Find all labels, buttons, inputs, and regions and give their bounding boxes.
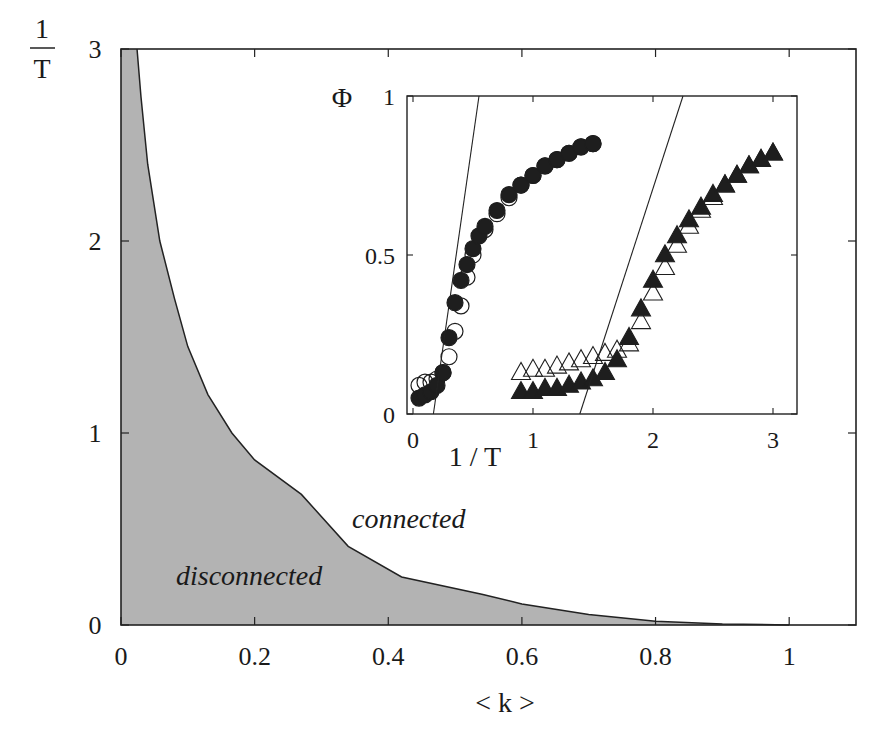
circle-marker — [585, 136, 601, 152]
inset-x-tick-label: 2 — [647, 427, 659, 453]
y-tick-label: 0 — [89, 611, 102, 640]
inset-y-tick-label: 0.5 — [365, 243, 395, 269]
inset-y-axis-label: Φ — [332, 82, 352, 113]
y-tick-label: 1 — [89, 419, 102, 448]
inset-y-tick-label: 1 — [383, 84, 395, 110]
inset-y-tick-label: 0 — [383, 402, 395, 428]
x-tick-label: 0.6 — [506, 642, 539, 671]
inset-x-axis-label: 1 / T — [449, 441, 501, 472]
main-x-axis-label: < k > — [475, 687, 535, 718]
x-tick-label: 0 — [115, 642, 128, 671]
x-tick-label: 0.2 — [238, 642, 271, 671]
circle-marker — [477, 218, 493, 234]
circle-marker — [489, 202, 505, 218]
circle-marker — [435, 365, 451, 381]
circle-marker — [459, 257, 475, 273]
y-tick-label: 3 — [89, 35, 102, 64]
y-tick-label: 2 — [89, 227, 102, 256]
y-label-denominator: T — [33, 53, 50, 84]
inset-x-tick-label: 0 — [407, 427, 419, 453]
x-tick-label: 0.8 — [639, 642, 672, 671]
phase-diagram-figure: 00.20.40.60.81 0123 connected disconnect… — [0, 0, 883, 739]
inset-plot: 0123 00.51 1 / T Φ — [332, 82, 797, 472]
circle-marker — [453, 272, 469, 288]
disconnected-region-label: disconnected — [176, 560, 323, 591]
main-y-axis-label: 1 T — [30, 13, 55, 84]
y-label-numerator: 1 — [35, 13, 49, 44]
chart-canvas: 00.20.40.60.81 0123 connected disconnect… — [0, 0, 883, 739]
inset-x-tick-label: 1 — [527, 427, 539, 453]
connected-region-label: connected — [352, 503, 466, 534]
x-tick-label: 1 — [783, 642, 796, 671]
x-tick-label: 0.4 — [372, 642, 405, 671]
inset-x-tick-label: 3 — [767, 427, 779, 453]
